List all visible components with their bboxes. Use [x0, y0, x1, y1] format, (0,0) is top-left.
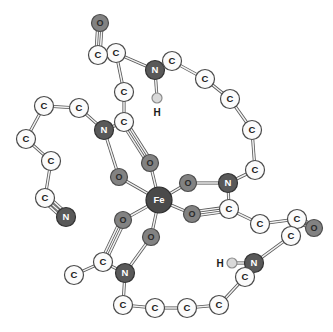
atom-label-c11: C [257, 218, 264, 229]
atom-label-c23: C [23, 133, 30, 144]
atom-c-c3[interactable]: C [107, 44, 126, 63]
atom-c-c16[interactable]: C [178, 299, 197, 318]
atom-c-c23[interactable]: C [17, 130, 36, 149]
atom-c-c7[interactable]: C [221, 90, 240, 109]
atom-label-c14: C [242, 271, 249, 282]
atom-label-o1: O [146, 158, 153, 168]
atom-h-h1[interactable] [152, 93, 162, 103]
atom-c-c10[interactable]: C [220, 200, 239, 219]
atom-label-c25: C [42, 192, 49, 203]
atom-c-c20[interactable]: C [65, 266, 84, 285]
atom-c-c12[interactable]: C [288, 210, 307, 229]
atom-label-n3: N [225, 177, 232, 188]
atom-c-c21[interactable]: C [70, 99, 89, 118]
atom-label-fe1: Fe [153, 194, 164, 205]
atom-label-c21: C [76, 102, 83, 113]
bond-C13-N4 [258, 239, 287, 260]
atom-label-c9: C [252, 164, 259, 175]
atom-c-c1[interactable]: C [115, 113, 134, 132]
atom-c-c14[interactable]: C [236, 268, 255, 287]
atom-label-c24: C [48, 155, 55, 166]
atom-label-c15: C [216, 299, 223, 310]
atom-n-n3[interactable]: N [219, 174, 238, 193]
bond-N5-O6 [128, 241, 148, 269]
atom-label-o8: O [310, 223, 317, 233]
atom-label-c10: C [226, 203, 233, 214]
atom-c-c2[interactable]: C [115, 83, 134, 102]
atom-label-c8: C [249, 124, 256, 135]
atom-c-c9[interactable]: C [246, 161, 265, 180]
atom-label-c6: C [202, 73, 209, 84]
atom-label-n1: N [101, 124, 108, 135]
atom-label-n5: N [122, 267, 129, 278]
atom-label-n6: N [63, 211, 70, 222]
atom-c-c13[interactable]: C [282, 227, 301, 246]
atom-label-c12: C [294, 213, 301, 224]
atom-c-c19[interactable]: C [94, 253, 113, 272]
atom-c-c11[interactable]: C [251, 215, 270, 234]
atom-o-o2[interactable]: O [111, 169, 128, 186]
atom-c-c17[interactable]: C [146, 299, 165, 318]
atom-o-o1[interactable]: O [142, 155, 159, 172]
atom-c-c22[interactable]: C [35, 97, 54, 116]
atom-c-c8[interactable]: C [243, 121, 262, 140]
atom-label-c4: C [95, 49, 102, 60]
atom-n-n6[interactable]: N [57, 208, 76, 227]
atom-label-c2: C [121, 86, 128, 97]
atom-c-c4[interactable]: C [89, 46, 108, 65]
atom-label-c7: C [227, 93, 234, 104]
atom-label-o2: O [115, 172, 122, 182]
bond-O2-N1 [106, 135, 118, 173]
atom-label-n4: N [251, 257, 258, 268]
atom-o-o8[interactable]: O [306, 220, 323, 237]
atom-label-c3: C [113, 47, 120, 58]
atom-fe-fe1[interactable]: Fe [146, 187, 172, 213]
atom-o-o7[interactable]: O [92, 15, 109, 32]
atom-c-c5[interactable]: C [163, 52, 182, 71]
atom-label-c22: C [41, 100, 48, 111]
molecule-canvas: FeOOOOOONCCCCONCCCCCNCCCOCNCCCCCNCCCCCCC… [0, 0, 333, 332]
atom-label-c16: C [184, 302, 191, 313]
atom-label-o4: O [188, 209, 195, 219]
atom-label-c20: C [71, 269, 78, 280]
atom-o-o5[interactable]: O [115, 212, 132, 229]
atom-label-o6: O [147, 232, 154, 242]
atom-label-c13: C [288, 230, 295, 241]
atom-label-o7: O [96, 18, 103, 28]
atom-o-o4[interactable]: O [184, 206, 201, 223]
atom-label-c19: C [100, 256, 107, 267]
atom-n-n1[interactable]: N [95, 121, 114, 140]
atom-o-o6[interactable]: O [143, 229, 160, 246]
atom-label-o3: O [184, 178, 191, 188]
atom-label-c1: C [121, 116, 128, 127]
atom-c-c6[interactable]: C [196, 70, 215, 89]
atom-c-c18[interactable]: C [114, 296, 133, 315]
atom-n-n5[interactable]: N [116, 264, 135, 283]
atom-h-h2[interactable] [227, 258, 237, 268]
atom-label-c5: C [169, 55, 176, 66]
atom-c-c24[interactable]: C [42, 152, 61, 171]
atom-label-c17: C [152, 302, 159, 313]
atom-c-c25[interactable]: C [36, 189, 55, 208]
atom-label-c18: C [120, 299, 127, 310]
atom-c-c15[interactable]: C [210, 296, 229, 315]
atom-label-n2: N [152, 64, 159, 75]
atom-layer: FeOOOOOONCCCCONCCCCCNCCCOCNCCCCCNCCCCCCC… [17, 15, 323, 318]
atom-n-n2[interactable]: N [146, 61, 165, 80]
atom-label-o5: O [119, 215, 126, 225]
atom-o-o3[interactable]: O [180, 175, 197, 192]
